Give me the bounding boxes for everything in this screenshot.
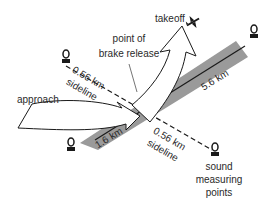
airplane-icon (183, 12, 202, 31)
sound-measuring-points-line3: points (194, 186, 244, 199)
brake-release-label: point of brake release (92, 33, 166, 59)
microphone-icon (62, 50, 70, 63)
microphone-icon (67, 138, 75, 151)
sound-measuring-points-line2: measuring (194, 173, 244, 186)
brake-release-label-line1: point of (92, 33, 166, 44)
takeoff-label: takeoff (155, 13, 185, 24)
brake-release-pointer (129, 64, 137, 92)
sound-measuring-points-label: sound measuring points (194, 160, 244, 199)
sound-measuring-points-line1: sound (194, 160, 244, 173)
microphone-icon (250, 25, 258, 38)
brake-release-label-line2: brake release (92, 48, 166, 59)
approach-label: approach (17, 94, 59, 105)
microphone-icon (211, 143, 219, 156)
